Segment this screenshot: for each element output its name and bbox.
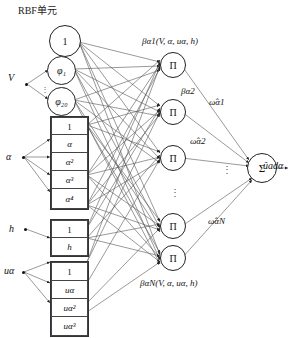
input-label-alpha: α — [6, 151, 11, 162]
regressor-cell-alpha-2[interactable]: α² — [51, 152, 88, 172]
regressor-cell-ua-2[interactable]: uα² — [51, 298, 88, 318]
regressor-cell-alpha-4[interactable]: α⁴ — [51, 188, 88, 209]
regressor-cell-alpha-1[interactable]: α — [51, 134, 88, 154]
beta-label-1: βα1(V, α, uα, h) — [142, 36, 198, 46]
rbf-node-phi-20[interactable]: φ₂₀ — [47, 87, 76, 116]
input-dot-V — [25, 83, 28, 86]
rbf-vertical-dots-left: ⋮ — [41, 86, 49, 94]
beta-label-n: βαN(V, α, uα, h) — [140, 278, 198, 288]
output-label: ûadα — [263, 160, 283, 171]
product-node-n-minus-1[interactable]: Π — [160, 213, 186, 239]
weight-labels-ellipsis: ⋮ — [222, 165, 232, 175]
product-node-2[interactable]: Π — [160, 99, 186, 125]
product-node-3[interactable]: Π — [160, 145, 186, 171]
input-dot-alpha — [22, 156, 25, 159]
input-dot-h — [24, 228, 27, 231]
regressor-cell-ua-0[interactable]: 1 — [51, 262, 88, 282]
regressor-cell-alpha-3[interactable]: α³ — [51, 170, 88, 190]
rbf-bias-node[interactable]: 1 — [49, 25, 81, 57]
input-label-h: h — [9, 223, 14, 234]
page-title: RBF单元 — [18, 6, 57, 16]
regressor-cell-ua-3[interactable]: uα³ — [51, 316, 88, 336]
product-node-n[interactable]: Π — [160, 245, 186, 271]
weight-label-2: ω̂α2 — [190, 136, 206, 146]
rbf-node-phi-1[interactable]: φ₁ — [47, 56, 76, 85]
input-dot-ua — [22, 271, 25, 274]
input-label-ua: uα — [4, 265, 14, 276]
weight-label-n: ω̂αN — [208, 216, 225, 226]
weight-label-1: ω̂α1 — [209, 97, 225, 107]
regressor-cell-h-1[interactable]: h — [51, 237, 88, 256]
input-label-V: V — [8, 72, 14, 83]
regressor-cell-ua-1[interactable]: uα — [51, 280, 88, 300]
product-nodes-ellipsis: ⋮ — [170, 188, 180, 198]
product-node-1[interactable]: Π — [160, 52, 186, 78]
rbf-network-diagram: RBF单元 V α h uα 1 φ₁ ⋮ ⋮ φ₂₀ 1 α α² α³ α⁴… — [0, 0, 295, 338]
beta-label-2: βα2 — [181, 86, 195, 96]
